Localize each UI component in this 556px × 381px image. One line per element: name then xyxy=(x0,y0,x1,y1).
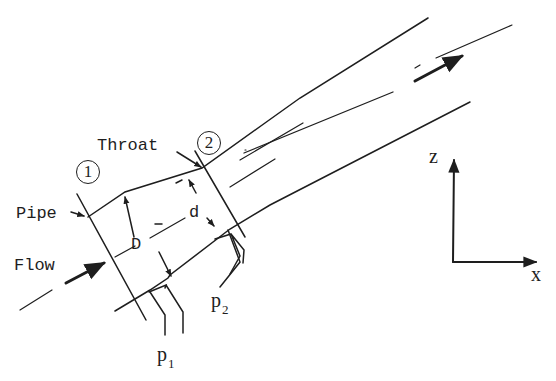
d-label: d xyxy=(189,204,199,221)
section-1-line xyxy=(77,194,146,320)
d-dimension xyxy=(189,180,196,193)
pipe-label: Pipe xyxy=(16,205,57,222)
p2-label: p2 xyxy=(211,290,229,310)
flow-arrow-out xyxy=(415,56,462,81)
venturi-diagram: 1 2 Throat Pipe Flow D d p2 p1 z x xyxy=(0,0,556,381)
D-dimension xyxy=(125,197,134,237)
venturi-drawing xyxy=(0,0,556,381)
flow-arrow-in xyxy=(66,263,104,283)
section-2-marker: 2 xyxy=(197,131,221,155)
z-axis xyxy=(453,160,454,262)
p1-label: p1 xyxy=(157,344,175,364)
section-2-line xyxy=(195,151,245,237)
D-label: D xyxy=(131,236,141,253)
throat-label: Throat xyxy=(97,137,158,154)
z-axis-label: z xyxy=(429,146,438,166)
pressure-tap-2 xyxy=(215,234,244,274)
upper-wall xyxy=(88,18,428,217)
section-1-marker: 1 xyxy=(76,160,100,184)
x-axis-label: x xyxy=(531,264,541,284)
flow-label: Flow xyxy=(14,257,55,274)
pipe-leader xyxy=(71,212,84,216)
pressure-tap-1 xyxy=(149,285,183,335)
section-1-label: 1 xyxy=(84,162,93,181)
section-2-label: 2 xyxy=(205,133,214,152)
